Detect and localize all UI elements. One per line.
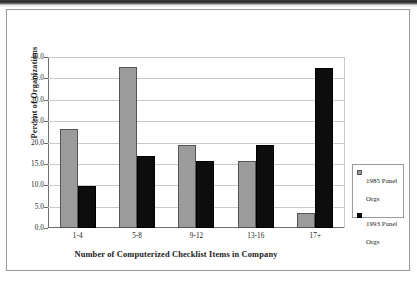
- legend-item[interactable]: 1993 Panel Orgs: [357, 212, 400, 248]
- bar-group: [48, 57, 107, 228]
- legend-label: 1985 Panel Orgs: [366, 177, 397, 202]
- bar: [256, 145, 274, 228]
- bar: [78, 186, 96, 228]
- bar-series-container: [48, 57, 345, 228]
- bar-group: [286, 57, 345, 228]
- y-tick-label: 0.0: [35, 224, 44, 232]
- bar: [297, 213, 315, 228]
- scan-artifact-band-light: [0, 5, 417, 7]
- y-axis-title: Percent of Organizations: [30, 13, 39, 173]
- legend-item[interactable]: 1985 Panel Orgs: [357, 169, 400, 205]
- figure: 40.035.030.025.020.015.010.05.00.0 Perce…: [0, 0, 417, 282]
- y-tick-mark: [44, 228, 48, 229]
- x-tick-label: 5-8: [107, 232, 166, 240]
- x-tick-label: 1-4: [48, 232, 107, 240]
- legend-swatch-icon: [357, 213, 362, 218]
- x-axis-title: Number of Computerized Checklist Items i…: [6, 250, 346, 259]
- legend-label: 1993 Panel Orgs: [366, 220, 397, 245]
- bar-group: [226, 57, 285, 228]
- bar: [315, 68, 333, 228]
- legend-swatch-icon: [357, 170, 362, 175]
- x-tick-label: 9-12: [167, 232, 226, 240]
- bar: [196, 161, 214, 228]
- chart-legend: 1985 Panel Orgs1993 Panel Orgs: [352, 164, 404, 218]
- x-tick-label: 13-16: [226, 232, 285, 240]
- y-tick-label: 5.0: [35, 203, 44, 211]
- bar: [178, 145, 196, 228]
- bar: [119, 67, 137, 228]
- y-tick-label: 10.0: [31, 181, 44, 189]
- bar: [137, 156, 155, 228]
- x-tick-label: 17+: [286, 232, 345, 240]
- bar-group: [107, 57, 166, 228]
- bar: [238, 161, 256, 228]
- bar-group: [167, 57, 226, 228]
- bar: [60, 129, 78, 228]
